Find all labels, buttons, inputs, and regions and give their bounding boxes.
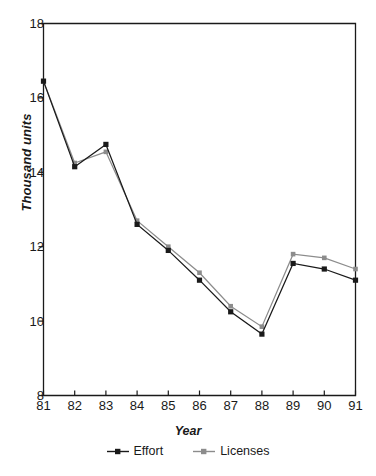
legend-label: Licenses: [220, 445, 269, 458]
line-chart: Thousand units 81012141618 8182838485868…: [0, 0, 376, 476]
x-axis-tick-labels: 8182838485868788899091: [0, 0, 376, 476]
legend-item-effort: Effort: [107, 445, 164, 458]
x-axis-label: Year: [0, 424, 376, 438]
legend-swatch: [193, 447, 215, 456]
legend-item-licenses: Licenses: [193, 445, 269, 458]
legend-swatch: [107, 447, 129, 456]
chart-legend: EffortLicenses: [0, 445, 376, 458]
legend-label: Effort: [134, 445, 164, 458]
x-tick-label: 91: [338, 399, 374, 413]
